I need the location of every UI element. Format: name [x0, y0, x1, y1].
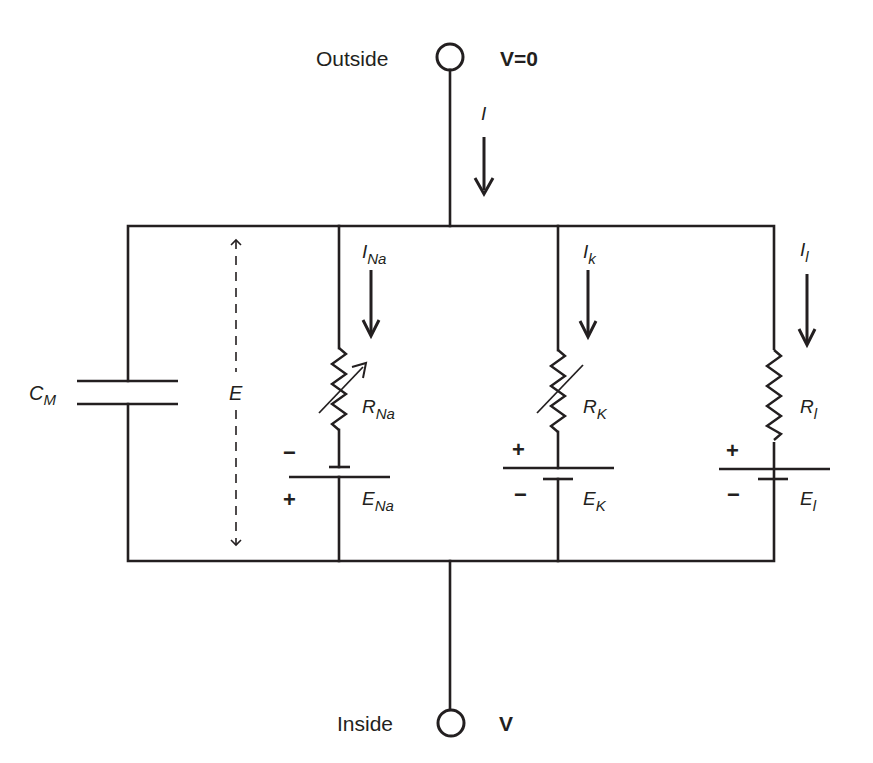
- sodium-battery-label: ENa: [362, 488, 394, 514]
- potassium-current-label: Ik: [583, 241, 597, 267]
- capacitor-label: CM: [29, 382, 56, 408]
- outside-label: Outside: [316, 47, 388, 70]
- sodium-battery-top-sign: −: [283, 440, 296, 465]
- voltage-label: E: [229, 382, 243, 404]
- potassium-resistor-label: RK: [583, 396, 608, 422]
- total-current-label: I: [481, 103, 487, 124]
- potassium-battery-top-sign: +: [512, 437, 525, 462]
- leak-battery-top-sign: +: [726, 438, 739, 463]
- capacitor: CM: [29, 381, 178, 408]
- potassium-battery-label: EK: [583, 488, 607, 514]
- outside-terminal-icon: [437, 44, 463, 70]
- sodium-variable-resistor-icon: [332, 348, 346, 430]
- sodium-resistor-label: RNa: [362, 396, 395, 422]
- branch-sodium: INa RNa − + ENa: [283, 226, 395, 561]
- circuit-diagram: Outside V=0 I CM E INa: [0, 0, 873, 763]
- leak-resistor-label: Rl: [800, 396, 818, 422]
- leak-current-label: Il: [800, 239, 809, 265]
- potassium-battery-bottom-sign: −: [514, 482, 527, 507]
- outside-terminal: Outside V=0: [316, 44, 538, 70]
- outside-voltage: V=0: [500, 47, 538, 70]
- down-arrow-icon: [580, 270, 596, 337]
- leak-battery-label: El: [800, 488, 817, 514]
- down-arrow-icon: [475, 137, 493, 194]
- total-current: I: [475, 103, 493, 194]
- membrane-rails: [128, 226, 774, 561]
- membrane-voltage: E: [229, 240, 243, 545]
- sodium-current-label: INa: [362, 241, 386, 267]
- inside-terminal: Inside V: [337, 710, 513, 736]
- branch-potassium: Ik RK + − EK: [503, 226, 614, 561]
- leak-battery-bottom-sign: −: [727, 482, 740, 507]
- down-arrow-icon: [799, 274, 815, 345]
- inside-voltage: V: [499, 712, 513, 735]
- inside-label: Inside: [337, 712, 393, 735]
- inside-terminal-icon: [438, 710, 464, 736]
- down-arrow-icon: [363, 270, 379, 336]
- sodium-battery-bottom-sign: +: [283, 487, 296, 512]
